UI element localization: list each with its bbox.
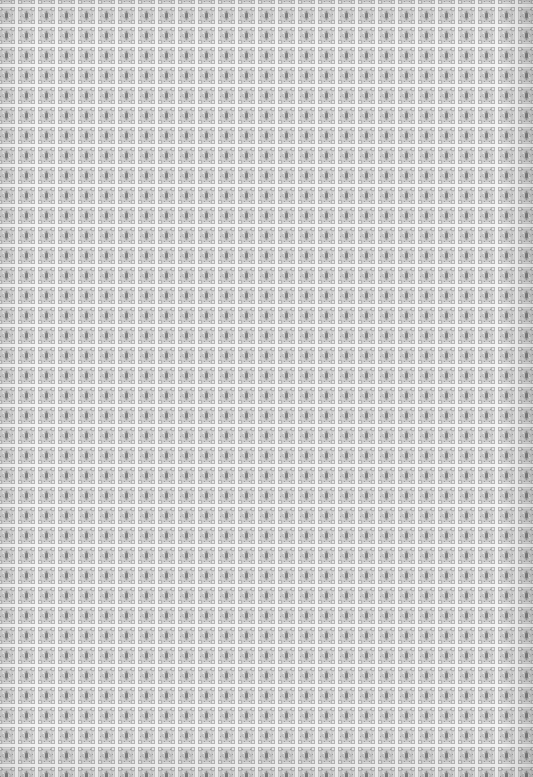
- ornamental-tile-pattern: [0, 0, 533, 777]
- patterned-sheet: [0, 0, 533, 777]
